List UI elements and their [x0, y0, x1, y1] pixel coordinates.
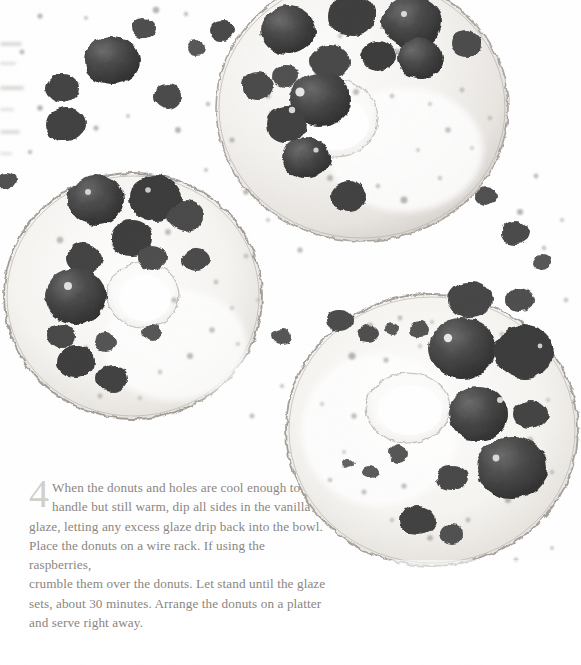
- step-line-3: glaze, letting any excess glaze drip bac…: [29, 517, 329, 536]
- step-text: When the donuts and holes are cool enoug…: [29, 478, 329, 632]
- step-line-6: sets, about 30 minutes. Arrange the donu…: [29, 594, 329, 613]
- step-line-1: When the donuts and holes are cool enoug…: [29, 478, 329, 497]
- recipe-step-4: 4 When the donuts and holes are cool eno…: [29, 478, 329, 632]
- step-line-2: handle but still warm, dip all sides in …: [29, 497, 329, 516]
- recipe-page: 4 When the donuts and holes are cool eno…: [0, 0, 581, 665]
- step-number: 4: [29, 474, 49, 514]
- step-line-7: and serve right away.: [29, 613, 329, 632]
- step-line-4: Place the donuts on a wire rack. If usin…: [29, 536, 329, 575]
- step-line-5: crumble them over the donuts. Let stand …: [29, 574, 329, 593]
